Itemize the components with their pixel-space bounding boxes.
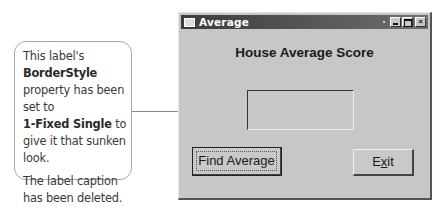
callout-paragraph-caption: The label caption has been deleted. xyxy=(23,173,131,207)
average-output-label xyxy=(247,90,354,130)
titlebar-dot xyxy=(383,21,385,23)
minimize-button[interactable] xyxy=(390,17,401,27)
maximize-button[interactable] xyxy=(402,17,413,27)
focus-rectangle xyxy=(196,151,277,171)
exit-button[interactable]: Exit xyxy=(353,149,414,176)
annotation-callout: This label's BorderStyle property has be… xyxy=(14,41,132,180)
callout-paragraph-borderstyle: This label's BorderStyle property has be… xyxy=(23,48,131,167)
title-bar[interactable]: Average × xyxy=(181,15,428,29)
borderstyle-term: BorderStyle xyxy=(23,66,97,80)
fixed-single-term: 1-Fixed Single xyxy=(23,117,112,131)
close-icon: × xyxy=(418,17,423,26)
form-icon[interactable] xyxy=(184,18,195,27)
close-button[interactable]: × xyxy=(415,17,426,27)
heading-label: House Average Score xyxy=(179,45,430,60)
average-form-window: Average × House Average Score Find Avera… xyxy=(178,12,432,200)
find-average-button[interactable]: Find Average xyxy=(192,147,282,176)
window-title: Average xyxy=(199,16,249,28)
